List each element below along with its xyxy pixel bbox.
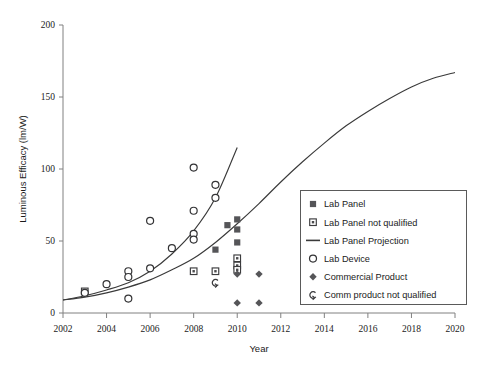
data-point-lab-device xyxy=(125,295,132,302)
data-point-lab-panel xyxy=(224,222,230,228)
legend-label: Lab Panel Projection xyxy=(324,236,409,246)
y-tick-label: 150 xyxy=(41,92,56,102)
y-tick-label: 50 xyxy=(46,236,56,246)
legend-label: Comm product not qualified xyxy=(324,290,436,300)
data-point-lab-device xyxy=(147,217,154,224)
data-point-lab-device xyxy=(212,181,219,188)
y-tick-label: 100 xyxy=(41,164,56,174)
data-point-lab-device xyxy=(103,281,110,288)
y-axis-title: Luminous Efficacy (lm/W) xyxy=(17,115,28,223)
data-point-lab-device xyxy=(190,236,197,243)
data-point-lab-panel xyxy=(234,216,240,222)
data-point-lab-device xyxy=(81,289,88,296)
data-point-lab-device xyxy=(125,274,132,281)
x-tick-label: 2006 xyxy=(141,324,160,334)
chart-canvas: 050100150200 200220042006200820102012201… xyxy=(0,0,484,380)
legend-label: Lab Panel xyxy=(324,199,365,209)
y-tick-label: 200 xyxy=(41,20,56,30)
data-point-lab-panel-not-qualified xyxy=(234,255,241,262)
x-tick-label: 2012 xyxy=(271,324,290,334)
legend-marker-open-square-dot xyxy=(310,219,317,226)
x-tick-label: 2008 xyxy=(184,324,203,334)
legend-label: Lab Device xyxy=(324,254,370,264)
y-tick-label: 0 xyxy=(50,308,55,318)
x-tick-label: 2004 xyxy=(97,324,116,334)
legend-label: Commercial Product xyxy=(324,272,408,282)
x-tick-label: 2016 xyxy=(358,324,377,334)
data-point-lab-device xyxy=(147,265,154,272)
x-tick-label: 2020 xyxy=(446,324,465,334)
x-axis-ticks: 2002200420062008201020122014201620182020 xyxy=(54,313,465,334)
x-tick-label: 2014 xyxy=(315,324,334,334)
data-point-lab-device xyxy=(190,207,197,214)
x-tick-label: 2010 xyxy=(228,324,247,334)
y-axis-ticks: 050100150200 xyxy=(41,20,63,318)
legend-label: Lab Panel not qualified xyxy=(324,218,417,228)
x-tick-label: 2002 xyxy=(54,324,73,334)
data-point-lab-panel-not-qualified xyxy=(190,268,197,275)
data-point-lab-panel xyxy=(234,239,240,245)
legend-marker-open-circle xyxy=(310,255,317,262)
data-point-lab-panel-not-qualified xyxy=(212,268,219,275)
legend-marker-filled-square xyxy=(310,201,316,207)
x-tick-label: 2018 xyxy=(402,324,421,334)
chart-legend: Lab PanelLab Panel not qualifiedLab Pane… xyxy=(301,191,467,305)
data-point-lab-device xyxy=(190,164,197,171)
data-point-lab-device xyxy=(212,194,219,201)
data-point-lab-panel xyxy=(212,247,218,253)
data-point-lab-device xyxy=(168,245,175,252)
x-axis-title: Year xyxy=(249,343,268,354)
chart-figure: 050100150200 200220042006200820102012201… xyxy=(0,0,484,380)
data-point-lab-panel xyxy=(234,226,240,232)
